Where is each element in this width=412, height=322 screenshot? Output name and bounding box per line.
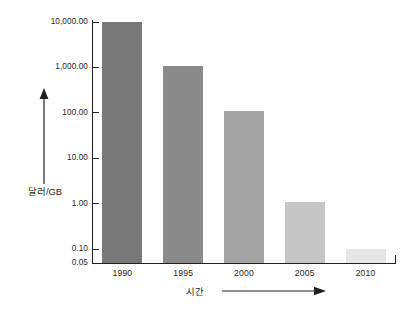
bottom-caption — [4, 313, 408, 320]
up-arrow-icon — [38, 88, 50, 184]
y-axis-tick — [92, 263, 99, 264]
chart-figure: 10,000.001,000.00100.0010.001.000.100.05… — [0, 0, 412, 322]
x-axis-tick-label: 1995 — [153, 268, 213, 278]
y-axis-tick — [92, 67, 99, 68]
y-axis-tick — [92, 112, 99, 113]
y-axis-tick-label: 10,000.00 — [4, 18, 88, 26]
bar — [224, 111, 264, 263]
y-axis-line — [92, 20, 93, 264]
x-axis-tick-label: 1990 — [92, 268, 152, 278]
x-axis-line — [92, 263, 396, 264]
y-axis-tick-label: 1.00 — [4, 200, 88, 208]
y-axis-tick — [92, 249, 99, 250]
bar — [163, 66, 203, 263]
right-arrow-icon — [222, 285, 326, 297]
x-axis-tick-label: 2010 — [336, 268, 396, 278]
x-axis-end-tick — [395, 255, 396, 264]
y-axis-tick — [92, 22, 99, 23]
y-axis-tick-label: 0.10 — [4, 245, 88, 253]
y-axis-tick — [92, 203, 99, 204]
x-axis-tick-label: 2005 — [275, 268, 335, 278]
y-axis-tick-label: 1,000.00 — [4, 63, 88, 71]
x-axis-tick-label: 2000 — [214, 268, 274, 278]
bar — [102, 22, 142, 263]
y-axis-tick — [92, 158, 99, 159]
x-axis-title: 시간 — [186, 286, 204, 297]
bar — [285, 202, 325, 263]
y-axis-title: 달러/GB — [6, 186, 84, 197]
y-axis-tick-label: 0.05 — [4, 259, 88, 267]
bar — [346, 249, 386, 263]
